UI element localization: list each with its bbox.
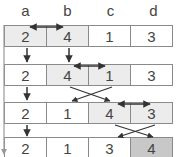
cell-2-d: 3 xyxy=(130,64,173,86)
column-header-a: a xyxy=(4,2,47,19)
column-header-d: d xyxy=(132,2,175,19)
cross-arrow-c-to-b-icon xyxy=(72,87,112,101)
cell-1-d: 3 xyxy=(130,25,173,47)
cross-arrow-d-to-c-icon xyxy=(118,125,155,137)
cell-4-c: 3 xyxy=(88,137,131,157)
cell-3-b: 1 xyxy=(46,102,89,124)
cell-2-b: 4 xyxy=(46,64,89,86)
cell-3-c: 4 xyxy=(88,102,131,124)
array-row-2: 2 4 1 3 xyxy=(4,64,177,86)
cell-2-a: 2 xyxy=(4,64,47,86)
array-row-1: 2 4 1 3 xyxy=(4,25,177,47)
cell-4-a: 2 xyxy=(4,137,47,157)
cross-arrow-b-to-c-icon xyxy=(70,87,110,101)
cell-3-d: 3 xyxy=(130,102,173,124)
array-row-3: 2 1 4 3 xyxy=(4,102,177,124)
cell-3-a: 2 xyxy=(4,102,47,124)
cell-2-c: 1 xyxy=(88,64,131,86)
column-header-c: c xyxy=(89,2,132,19)
cell-4-d: 4 xyxy=(130,137,173,157)
cell-1-c: 1 xyxy=(88,25,131,47)
array-row-4: 2 1 3 4 xyxy=(4,137,177,157)
column-header-b: b xyxy=(46,2,89,19)
cell-1-b: 4 xyxy=(46,25,89,47)
cell-1-a: 2 xyxy=(4,25,47,47)
cross-arrow-c-to-d-icon xyxy=(115,125,153,137)
cell-4-b: 1 xyxy=(46,137,89,157)
